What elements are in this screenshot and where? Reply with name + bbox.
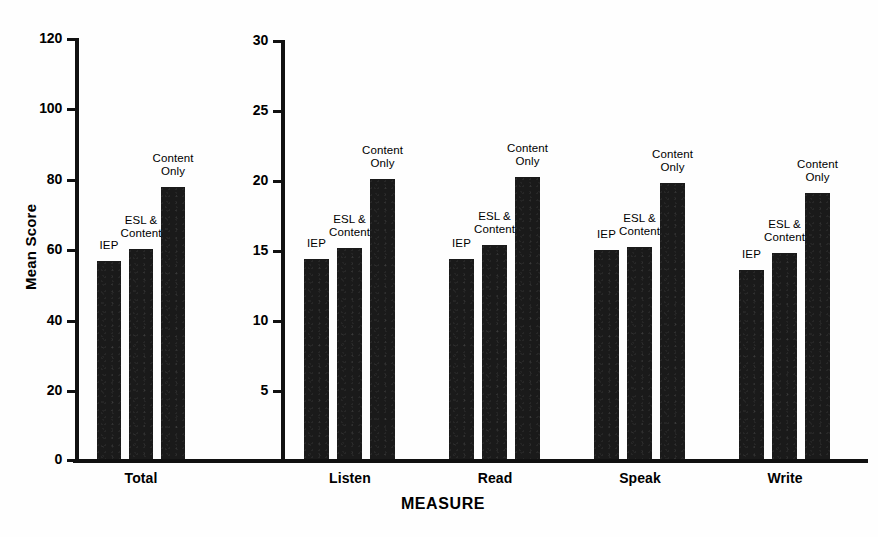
- bar-listen-content-only: [370, 179, 395, 461]
- left-y-tick-label-0: 0: [24, 452, 62, 466]
- bar-speak-iep: [594, 250, 619, 461]
- left-y-tick-label-40: 40: [24, 313, 62, 327]
- bar-read-esl-content: [482, 245, 507, 461]
- bar-label-line2: Only: [161, 165, 185, 177]
- right-y-tick-30: [273, 40, 282, 43]
- right-y-tick-label-30: 30: [240, 33, 268, 47]
- bar-label-line2: Content: [764, 231, 805, 243]
- bar-label-line2: Content: [474, 223, 515, 235]
- bar-write-content-only: [805, 193, 830, 461]
- bar-label-line2: Only: [805, 171, 829, 183]
- right-y-tick-10: [273, 320, 282, 323]
- bar-label-line1: Content: [153, 152, 194, 164]
- bar-label-line1: Content: [507, 142, 548, 154]
- bar-listen-esl-content: [337, 248, 362, 461]
- bar-chart: 120 100 80 60 40 20 0 Mean Score IEP ESL…: [0, 0, 878, 537]
- bar-read-content-only: [515, 177, 540, 461]
- group-label-speak: Speak: [600, 470, 680, 486]
- bar-label-line2: Only: [660, 161, 684, 173]
- left-y-tick-60: [67, 249, 76, 252]
- bar-label-line2: Content: [619, 225, 660, 237]
- x-axis-title: MEASURE: [383, 495, 503, 513]
- bar-total-iep: [97, 261, 121, 459]
- left-y-tick-label-20: 20: [24, 383, 62, 397]
- bar-read-iep: [449, 259, 474, 461]
- right-y-tick-label-15: 15: [240, 243, 268, 257]
- right-y-tick-25: [273, 110, 282, 113]
- bar-label-line1: ESL &: [478, 210, 511, 222]
- bar-write-esl-content: [772, 253, 797, 461]
- right-y-tick-label-20: 20: [240, 173, 268, 187]
- bar-label-total-content-only: Content Only: [145, 152, 201, 177]
- bar-label-line1: Content: [652, 148, 693, 160]
- right-y-tick-15: [273, 250, 282, 253]
- bar-label-line2: Content: [121, 227, 162, 239]
- bar-speak-content-only: [660, 183, 685, 461]
- left-y-tick-40: [67, 320, 76, 323]
- bar-total-content-only: [161, 187, 185, 459]
- bar-write-iep: [739, 270, 764, 461]
- bar-label-line1: ESL &: [768, 218, 801, 230]
- x-axis-baseline: [73, 459, 868, 463]
- bar-label-line2: Only: [515, 155, 539, 167]
- bar-label-speak-content-only: Content Only: [644, 148, 701, 173]
- bar-label-line1: ESL &: [333, 213, 366, 225]
- bar-listen-iep: [304, 259, 329, 461]
- bar-label-listen-content-only: Content Only: [354, 144, 411, 169]
- right-y-tick-5: [273, 390, 282, 393]
- bar-label-write-content-only: Content Only: [789, 158, 846, 183]
- bar-total-esl-content: [129, 249, 153, 459]
- left-y-tick-20: [67, 390, 76, 393]
- group-label-write: Write: [745, 470, 825, 486]
- bar-label-total-iep: IEP: [87, 239, 131, 252]
- bar-label-line2: Only: [370, 157, 394, 169]
- left-y-tick-120: [67, 38, 76, 41]
- bar-label-line2: Content: [329, 226, 370, 238]
- right-y-tick-label-5: 5: [240, 383, 268, 397]
- left-y-tick-label-80: 80: [24, 172, 62, 186]
- bar-label-line1: Content: [797, 158, 838, 170]
- left-y-tick-100: [67, 108, 76, 111]
- bar-label-write-iep: IEP: [729, 248, 774, 261]
- bar-label-read-iep: IEP: [439, 237, 484, 250]
- bar-label-read-content-only: Content Only: [499, 142, 556, 167]
- y-axis-title: Mean Score: [22, 204, 39, 290]
- bar-label-listen-iep: IEP: [294, 237, 339, 250]
- left-y-tick-80: [67, 179, 76, 182]
- left-y-tick-label-120: 120: [24, 31, 62, 45]
- right-y-tick-label-10: 10: [240, 313, 268, 327]
- right-y-tick-20: [273, 180, 282, 183]
- group-label-total: Total: [101, 470, 181, 486]
- bar-speak-esl-content: [627, 247, 652, 461]
- left-y-tick-label-100: 100: [24, 101, 62, 115]
- group-label-read: Read: [455, 470, 535, 486]
- right-y-tick-label-25: 25: [240, 103, 268, 117]
- bar-label-line1: ESL &: [125, 214, 158, 226]
- group-label-listen: Listen: [310, 470, 390, 486]
- bar-label-line1: ESL &: [623, 212, 656, 224]
- bar-label-line1: Content: [362, 144, 403, 156]
